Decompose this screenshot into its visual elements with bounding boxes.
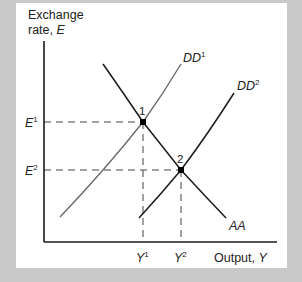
e2-label: E2 — [25, 163, 38, 178]
y1-sup: 1 — [144, 250, 149, 259]
dd1-label: DD1 — [183, 50, 206, 65]
x-axis-var: Y — [258, 251, 268, 265]
y-axis-var: E — [57, 23, 66, 37]
guide-lines — [44, 122, 181, 242]
x-axis-label: Output, Y — [214, 251, 268, 265]
y1-label: Y1 — [136, 250, 149, 265]
point-2-label: 2 — [177, 153, 183, 165]
dd2-sup: 2 — [255, 78, 260, 87]
dd2-name: DD — [237, 79, 255, 93]
y-axis-label-text: rate, — [28, 23, 57, 37]
aa-curve — [103, 64, 226, 218]
equilibrium-point-1 — [140, 119, 146, 125]
e1-label: E1 — [25, 115, 38, 130]
dd2-label: DD2 — [237, 78, 260, 93]
y-axis-label-line2: rate, E — [28, 23, 66, 37]
e1-sup: 1 — [33, 115, 38, 124]
x-axis-label-text: Output, — [214, 251, 258, 265]
y2-label: Y2 — [174, 250, 187, 265]
dd2-curve — [139, 93, 234, 218]
point-1-label: 1 — [139, 105, 145, 117]
axes — [44, 41, 277, 242]
dd-aa-diagram: Exchange rate, E Output, Y E1 E2 Y1 Y2 1… — [0, 0, 302, 282]
y-axis-label-line1: Exchange — [28, 8, 84, 22]
y2-sup: 2 — [182, 250, 187, 259]
e2-sup: 2 — [33, 163, 38, 172]
equilibrium-point-2 — [178, 167, 184, 173]
dd1-sup: 1 — [201, 50, 206, 59]
aa-label: AA — [228, 219, 246, 233]
dd1-name: DD — [183, 51, 201, 65]
dd1-curve — [60, 64, 181, 217]
